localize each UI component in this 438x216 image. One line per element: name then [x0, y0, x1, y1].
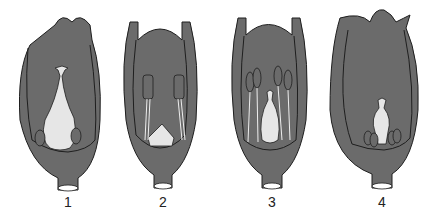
label-2: 2 — [153, 194, 173, 210]
flower-4 — [330, 10, 418, 189]
flower-diagram — [0, 0, 438, 216]
flower-3 — [232, 18, 307, 189]
flower-2 — [124, 22, 197, 189]
label-4: 4 — [372, 194, 392, 210]
flower-1 — [19, 18, 100, 191]
label-1: 1 — [58, 194, 78, 210]
label-3: 3 — [262, 194, 282, 210]
